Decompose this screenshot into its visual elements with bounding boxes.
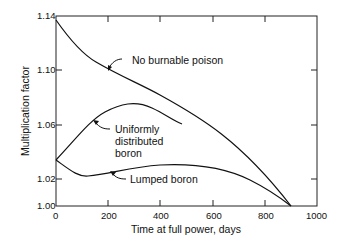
label-uniform-3: boron	[115, 147, 142, 159]
xtick-1000: 1000	[306, 210, 327, 221]
ytick-1-06: 1.06	[37, 119, 56, 130]
label-no-burnable-poison: No burnable poison	[132, 54, 223, 66]
label-uniform-1: Uniformly	[115, 123, 159, 135]
xtick-400: 400	[153, 210, 169, 221]
label-lumped-boron: Lumped boron	[130, 173, 198, 185]
x-axis-label: Time at full power, days	[131, 223, 241, 235]
xtick-200: 200	[101, 210, 117, 221]
xtick-800: 800	[258, 210, 274, 221]
xtick-0: 0	[53, 210, 58, 221]
y-ticks	[56, 70, 317, 179]
annotation-leaders	[95, 59, 126, 179]
label-uniform-2: distributed	[115, 135, 163, 147]
ytick-1-14: 1.14	[37, 10, 56, 21]
xtick-600: 600	[206, 210, 222, 221]
ytick-1-02: 1.02	[37, 173, 56, 184]
ytick-1-10: 1.10	[37, 64, 56, 75]
arrow-icons	[93, 65, 116, 176]
y-axis-label: Multiplication factor	[19, 56, 31, 166]
